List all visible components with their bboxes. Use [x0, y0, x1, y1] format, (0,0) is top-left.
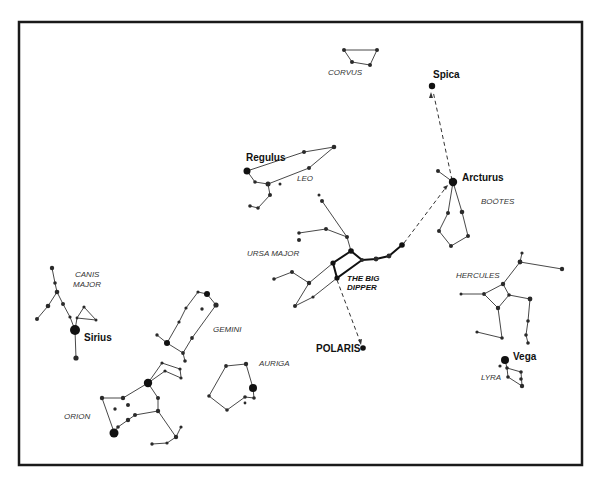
label-leo: LEO — [297, 174, 313, 183]
star-polaris — [360, 345, 366, 351]
star-spica — [429, 83, 435, 89]
constellation-orion: ORION — [64, 361, 183, 445]
label-canis-major-1: CANIS — [75, 270, 100, 279]
constellation-canis-major: Sirius CANIS MAJOR — [35, 266, 112, 361]
constellation-auriga: AURIGA — [207, 359, 289, 412]
label-bootes: BOÖTES — [481, 197, 515, 206]
constellation-corvus: CORVUS — [328, 48, 379, 77]
label-spica: Spica — [433, 69, 460, 80]
constellation-ursa-major: URSA MAJOR THE BIG DIPPER — [247, 194, 405, 309]
label-regulus: Regulus — [246, 152, 286, 163]
constellation-lyra: Vega LYRA — [481, 351, 537, 388]
star-chart: CORVUS Spica Regulus LEO — [0, 0, 598, 485]
label-auriga: AURIGA — [258, 359, 290, 368]
label-gemini: GEMINI — [213, 325, 242, 334]
constellation-gemini: GEMINI — [155, 290, 242, 362]
label-big-dipper-1: THE BIG — [347, 274, 379, 283]
label-sirius: Sirius — [84, 332, 112, 343]
pointer-lines — [337, 91, 452, 345]
constellation-bootes: Arcturus BOÖTES — [436, 169, 515, 248]
label-arcturus: Arcturus — [462, 172, 504, 183]
label-polaris: POLARIS — [316, 343, 361, 354]
label-canis-major-2: MAJOR — [73, 280, 101, 289]
label-ursa-major: URSA MAJOR — [247, 249, 299, 258]
label-lyra: LYRA — [481, 373, 501, 382]
constellation-hercules: HERCULES — [456, 251, 564, 344]
label-orion: ORION — [64, 412, 90, 421]
label-corvus: CORVUS — [328, 68, 363, 77]
label-vega: Vega — [513, 351, 537, 362]
label-big-dipper-2: DIPPER — [347, 283, 377, 292]
label-hercules: HERCULES — [456, 271, 500, 280]
